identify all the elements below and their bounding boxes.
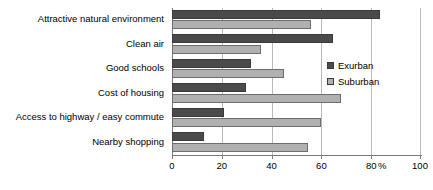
bar-exurban bbox=[172, 59, 251, 68]
x-axis-unit-label: % bbox=[378, 160, 386, 171]
legend-label: Exurban bbox=[338, 60, 373, 71]
tick-mark bbox=[172, 155, 173, 159]
tick-mark bbox=[321, 155, 322, 159]
category-label: Access to highway / easy commute bbox=[0, 112, 164, 122]
bar-suburban bbox=[172, 143, 308, 152]
category-label: Nearby shopping bbox=[0, 137, 164, 147]
tick-mark bbox=[420, 155, 421, 159]
bar-exurban bbox=[172, 132, 204, 141]
bar-group bbox=[172, 106, 421, 131]
tick-mark bbox=[371, 155, 372, 159]
category-label: Clean air bbox=[0, 39, 164, 49]
bar-group bbox=[172, 33, 421, 58]
legend: Exurban Suburban bbox=[327, 58, 399, 90]
tick-mark bbox=[222, 155, 223, 159]
x-axis-tick-labels: 0 20 40 60 80 100 bbox=[0, 160, 426, 174]
x-axis-line bbox=[172, 155, 422, 156]
bar-exurban bbox=[172, 108, 224, 117]
legend-swatch-icon bbox=[327, 78, 334, 85]
x-tick-label: 100 bbox=[400, 160, 433, 171]
bar-group bbox=[172, 131, 421, 156]
category-label: Cost of housing bbox=[0, 88, 164, 98]
legend-item-suburban: Suburban bbox=[327, 74, 399, 88]
bar-exurban bbox=[172, 83, 246, 92]
bar-suburban bbox=[172, 20, 311, 29]
x-tick-label: 40 bbox=[252, 160, 292, 171]
x-tick-label: 20 bbox=[202, 160, 242, 171]
legend-label: Suburban bbox=[338, 76, 379, 87]
bar-suburban bbox=[172, 94, 341, 103]
bar-suburban bbox=[172, 45, 261, 54]
bar-exurban bbox=[172, 34, 333, 43]
bar-suburban bbox=[172, 118, 321, 127]
category-axis-labels: Attractive natural environment Clean air… bbox=[0, 8, 168, 155]
x-tick-label: 0 bbox=[152, 160, 192, 171]
tick-mark bbox=[272, 155, 273, 159]
x-tick-label: 60 bbox=[301, 160, 341, 171]
category-label: Attractive natural environment bbox=[0, 14, 164, 24]
legend-item-exurban: Exurban bbox=[327, 58, 399, 72]
bar-group bbox=[172, 8, 421, 33]
legend-swatch-icon bbox=[327, 62, 334, 69]
bar-exurban bbox=[172, 10, 380, 19]
category-label: Good schools bbox=[0, 63, 164, 73]
bar-suburban bbox=[172, 69, 284, 78]
